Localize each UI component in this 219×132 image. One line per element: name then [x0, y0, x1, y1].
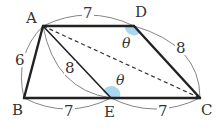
- angle-label-d: θ: [122, 35, 131, 51]
- length-label-ad: 7: [83, 4, 93, 22]
- geometry-diagram: 7 8 6 8 7 7 θ θ A D B E C: [0, 0, 219, 132]
- length-label-dc: 8: [176, 39, 186, 57]
- vertex-label-e: E: [104, 103, 115, 121]
- vertex-label-b: B: [12, 101, 23, 119]
- dim-arc-ec: [111, 98, 200, 109]
- vertex-label-c: C: [201, 101, 212, 119]
- length-label-ab: 6: [15, 51, 25, 69]
- vertex-label-d: D: [135, 3, 147, 21]
- vertex-label-a: A: [25, 9, 37, 27]
- length-label-be: 7: [64, 102, 74, 120]
- edge-ae: [43, 26, 111, 98]
- angle-label-e: θ: [116, 72, 125, 88]
- length-label-ae: 8: [65, 59, 75, 77]
- length-label-ec: 7: [158, 102, 168, 120]
